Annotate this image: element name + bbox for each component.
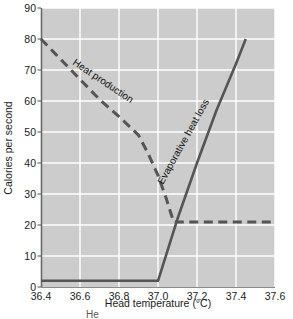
y-axis-tick-labels: 0102030405060708090	[24, 2, 41, 293]
x-tick-36.6: 36.6	[70, 290, 91, 302]
y-tick-30: 30	[24, 188, 36, 200]
y-tick-60: 60	[24, 95, 36, 107]
y-axis-title: Calories per second	[2, 101, 14, 195]
y-tick-20: 20	[24, 219, 36, 231]
chart-figure: 0102030405060708090 36.436.636.837.037.2…	[0, 0, 293, 319]
y-tick-80: 80	[24, 33, 36, 45]
caption-fragment: He	[86, 309, 99, 319]
x-tick-36.4: 36.4	[31, 290, 52, 302]
x-tick-37.4: 37.4	[226, 290, 247, 302]
y-tick-40: 40	[24, 157, 36, 169]
x-axis-title: Head temperature (°C)	[105, 297, 211, 309]
y-tick-70: 70	[24, 64, 36, 76]
y-tick-50: 50	[24, 126, 36, 138]
x-tick-37.6: 37.6	[265, 290, 286, 302]
y-tick-10: 10	[24, 250, 36, 262]
chart-svg: 0102030405060708090 36.436.636.837.037.2…	[0, 0, 293, 319]
y-tick-90: 90	[24, 2, 36, 14]
